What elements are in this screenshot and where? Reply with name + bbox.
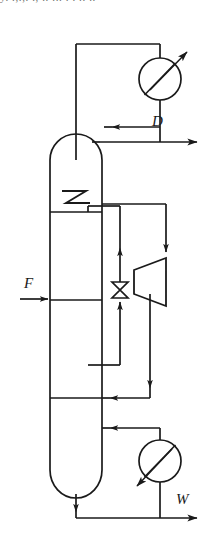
reboiler bbox=[137, 440, 181, 486]
cropped-caption-fragment: y. .,.,. ., .. ... . . .. .. bbox=[0, 0, 219, 13]
side-draw-line bbox=[102, 204, 166, 252]
side-stripper-return-line bbox=[102, 294, 150, 398]
distillate-label: D bbox=[152, 114, 163, 129]
cropped-caption-text: y. .,.,. ., .. ... . . .. .. bbox=[0, 0, 219, 3]
process-flow-diagram: y. .,.,. ., .. ... . . .. .. F D W bbox=[0, 0, 219, 543]
control-valve bbox=[112, 282, 128, 298]
diagram-canvas bbox=[0, 0, 219, 543]
tray-zigzag bbox=[62, 191, 90, 203]
reboiler-feed-line bbox=[102, 428, 160, 440]
internal-recycle-line bbox=[88, 302, 120, 365]
internal-recycle-upper-line bbox=[88, 206, 120, 282]
column-section-dividers bbox=[50, 212, 102, 398]
bottoms-label: W bbox=[176, 492, 189, 507]
column-shell bbox=[50, 134, 102, 498]
condenser bbox=[139, 52, 187, 100]
feed-label: F bbox=[24, 276, 33, 291]
